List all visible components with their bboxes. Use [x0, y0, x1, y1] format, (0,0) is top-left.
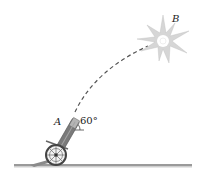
explosion-burst-icon: [137, 15, 189, 63]
label-point-a: A: [54, 117, 61, 127]
label-point-b: B: [172, 14, 179, 24]
projectile-diagram: [0, 0, 204, 183]
label-angle: 60°: [80, 116, 98, 126]
trajectory-path: [75, 46, 148, 112]
